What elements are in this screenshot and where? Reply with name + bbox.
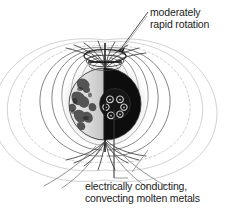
molten-metal-core [100, 89, 131, 120]
annotation-core-line2: convecting molten metals [85, 193, 200, 205]
annotation-rotation-line1: moderately [150, 6, 200, 18]
annotation-rotation-line2: rapid rotation [150, 19, 209, 31]
magnetic-dynamo-figure: moderately rapid rotation electrically c… [0, 0, 237, 213]
annotation-rotation: moderately rapid rotation [150, 7, 209, 30]
annotation-core: electrically conducting, convecting molt… [85, 181, 200, 204]
annotation-core-line1: electrically conducting, [85, 180, 187, 192]
